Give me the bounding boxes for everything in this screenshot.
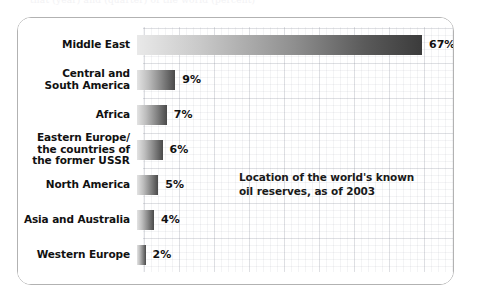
category-label: Middle East — [18, 39, 137, 51]
bar — [137, 210, 154, 230]
bar — [137, 175, 158, 195]
table-row: Eastern Europe/ the countries of the for… — [18, 132, 453, 167]
table-row: Asia and Australia 4% — [18, 202, 453, 237]
bar-area: 9% — [137, 62, 453, 97]
clipped-header-text: that (year) and (quarter) of the world (… — [0, 0, 486, 9]
bar-value-label: 6% — [170, 143, 189, 156]
bar-value-label: 7% — [174, 108, 193, 121]
bar-area: 2% — [137, 237, 453, 272]
category-label: Asia and Australia — [18, 214, 137, 226]
clipped-header-text-line: that (year) and (quarter) of the world (… — [0, 0, 255, 5]
chart-panel: Middle East 67% Central and South Americ… — [17, 17, 454, 285]
bar — [137, 70, 175, 90]
bottom-margin-mask — [18, 272, 453, 284]
bar-value-label: 4% — [161, 213, 180, 226]
bar-area: 67% — [137, 27, 454, 62]
bar-value-label: 9% — [182, 73, 201, 86]
category-label: North America — [18, 179, 137, 191]
ussr-abbreviation: USSR — [98, 154, 130, 166]
bar — [137, 105, 167, 125]
table-row: Africa 7% — [18, 97, 453, 132]
bar-rows: Middle East 67% Central and South Americ… — [18, 27, 453, 272]
top-margin-mask — [18, 18, 453, 27]
bar-area: 4% — [137, 202, 453, 237]
table-row: Western Europe 2% — [18, 237, 453, 272]
bar-value-label: 5% — [165, 178, 184, 191]
table-row: Middle East 67% — [18, 27, 453, 62]
category-label: Western Europe — [18, 249, 137, 261]
bar — [137, 140, 163, 160]
category-label: Africa — [18, 109, 137, 121]
bar — [137, 245, 146, 265]
bar-area: 6% — [137, 132, 453, 167]
bar-value-label: 2% — [153, 248, 172, 261]
bar — [137, 35, 422, 55]
bar-value-label: 67% — [429, 38, 454, 51]
category-label: Eastern Europe/ the countries of the for… — [18, 132, 137, 167]
bar-area: 7% — [137, 97, 453, 132]
category-label: Central and South America — [18, 68, 137, 91]
chart-annotation: Location of the world's known oil reserv… — [239, 171, 414, 198]
table-row: Central and South America 9% — [18, 62, 453, 97]
